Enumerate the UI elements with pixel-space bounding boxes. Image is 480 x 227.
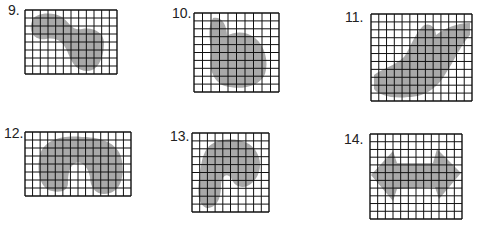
problem-10-grid — [193, 12, 280, 93]
problem-11-grid — [370, 13, 473, 102]
problem-13-label: 13. — [170, 128, 189, 144]
problem-14-grid — [369, 133, 463, 220]
problem-9-grid — [24, 9, 118, 75]
problem-12-label: 12. — [4, 125, 23, 141]
problem-11-label: 11. — [345, 9, 363, 25]
problem-12-grid — [24, 131, 132, 197]
problem-9-label: 9. — [8, 2, 20, 18]
problem-13-grid — [191, 132, 270, 213]
problem-14-label: 14. — [344, 131, 363, 147]
problem-10-label: 10. — [172, 5, 191, 21]
